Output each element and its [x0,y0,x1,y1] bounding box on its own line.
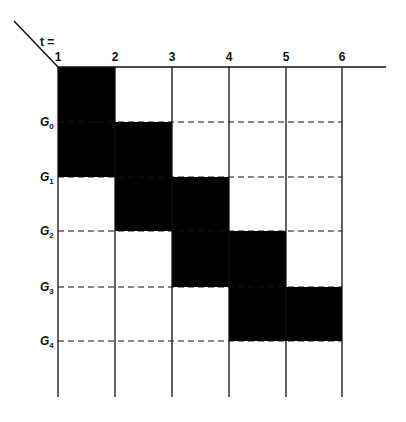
staircase-diagram: t = 123456 G0G1G2G3G4 [0,0,406,422]
row-label-g2: G2 [40,224,54,240]
column-labels: 123456 [55,50,346,64]
column-label-6: 6 [339,50,346,64]
block-1 [58,67,115,177]
row-label-g1: G1 [40,170,54,186]
row-label-g3: G3 [40,280,54,296]
column-label-1: 1 [55,50,62,64]
block-4 [229,231,286,341]
black-blocks [58,67,342,341]
block-3 [172,177,229,287]
column-label-4: 4 [226,50,233,64]
row-label-g4: G4 [40,334,54,350]
t-label: t = [40,35,54,49]
column-label-3: 3 [169,50,176,64]
column-label-2: 2 [112,50,119,64]
block-5 [286,287,342,341]
row-labels: G0G1G2G3G4 [40,115,54,350]
row-label-g0: G0 [40,115,54,131]
column-label-5: 5 [283,50,290,64]
